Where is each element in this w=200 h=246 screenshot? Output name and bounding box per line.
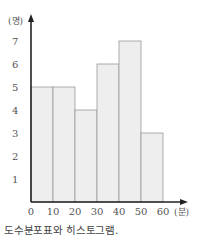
- histogram-bar: [53, 87, 75, 202]
- y-tick-label: 5: [12, 82, 18, 93]
- y-axis-arrow-icon: [28, 14, 34, 22]
- x-tick-labels: 0102030405060: [28, 206, 170, 217]
- y-tick-label: 2: [12, 151, 18, 162]
- x-axis-arrow-icon: [180, 199, 188, 205]
- x-tick-label: 10: [47, 206, 60, 217]
- histogram-bar: [97, 64, 119, 202]
- x-tick-label: 50: [135, 206, 148, 217]
- y-tick-labels: 1234567: [12, 36, 18, 185]
- x-tick-label: 60: [157, 206, 170, 217]
- histogram-chart: 1234567 0102030405060 (명) (분): [0, 0, 200, 222]
- x-tick-label: 40: [113, 206, 126, 217]
- x-axis-label: (분): [174, 207, 189, 217]
- y-tick-label: 6: [12, 59, 18, 70]
- histogram-bar: [31, 87, 53, 202]
- y-axis-label: (명): [8, 16, 23, 26]
- histogram-bar: [75, 110, 97, 202]
- y-tick-label: 1: [12, 174, 18, 185]
- histogram-bars: [31, 41, 163, 202]
- histogram-bar: [119, 41, 141, 202]
- figure-caption: 도수분포표와 히스토그램.: [4, 222, 118, 237]
- histogram-bar: [141, 133, 163, 202]
- x-tick-label: 0: [28, 206, 34, 217]
- y-tick-label: 3: [12, 128, 18, 139]
- y-tick-label: 7: [12, 36, 18, 47]
- y-tick-label: 4: [12, 105, 18, 116]
- x-tick-label: 20: [69, 206, 82, 217]
- x-tick-label: 30: [91, 206, 104, 217]
